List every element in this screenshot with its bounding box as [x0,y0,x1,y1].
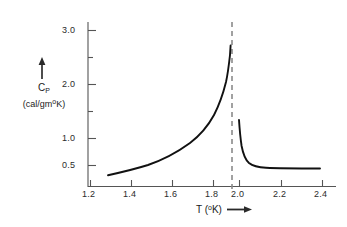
y-axis-symbol-subscript: P [45,87,50,94]
y-tick-label-3-0: 3.0 [62,25,75,35]
y-axis-label: CP (cal/gmoK) [8,82,80,110]
x-axis-label: T (oK) [196,203,253,216]
x-tick-label-2-0: 2.0 [231,189,244,199]
curve-he-one-branch [239,120,320,169]
degree-symbol-y: o [52,98,56,105]
x-axis-direction-arrow [227,205,253,216]
x-tick-label-2-2: 2.2 [273,189,286,199]
x-tick-label-1-4: 1.4 [123,189,136,199]
degree-symbol-x: o [208,204,212,211]
x-tick-label-1-8: 1.8 [205,189,218,199]
x-axis-ticks [91,180,323,187]
y-axis-label-symbol: CP [8,82,80,95]
y-axis-units-head: (cal/gm [23,99,53,109]
x-tick-label-1-2: 1.2 [82,189,95,199]
y-axis-units-tail: K) [56,99,65,109]
x-tick-label-1-6: 1.6 [164,189,177,199]
x-axis-label-head: T ( [196,204,208,215]
y-axis-label-units: (cal/gmoK) [8,97,80,110]
chart-figure: 3.0 2.0 1.0 0.5 1.2 1.4 1.6 1.8 2.0 2.2 … [0,0,347,227]
y-axis-direction-arrow [39,57,46,79]
y-tick-label-0-5: 0.5 [62,160,75,170]
y-axis-ticks [88,31,96,166]
x-tick-label-2-4: 2.4 [314,189,327,199]
x-axis-label-tail: K) [212,204,222,215]
y-tick-label-1-0: 1.0 [62,133,75,143]
curve-he-two-branch [108,46,231,176]
